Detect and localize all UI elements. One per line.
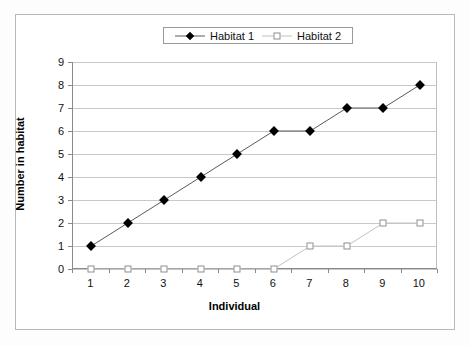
legend-entry-habitat-1[interactable]: Habitat 1 [175,30,254,42]
legend-label-habitat-1: Habitat 1 [210,30,254,42]
x-axis-title: Individual [0,300,469,312]
data-point-habitat-2 [270,266,277,273]
legend-marker-open-square-icon [262,31,292,41]
data-point-habitat-2 [88,266,95,273]
series-lines [73,62,438,269]
legend-label-habitat-2: Habitat 2 [297,30,341,42]
data-point-habitat-2 [380,220,387,227]
chart-legend: Habitat 1 Habitat 2 [163,27,353,44]
data-point-habitat-2 [416,220,423,227]
data-point-habitat-2 [343,243,350,250]
data-point-habitat-2 [307,243,314,250]
legend-marker-filled-diamond-icon [175,31,205,41]
data-point-habitat-2 [197,266,204,273]
plot-area [72,62,437,269]
y-axis-title: Number in habitat [14,84,26,244]
data-point-habitat-2 [124,266,131,273]
legend-entry-habitat-2[interactable]: Habitat 2 [262,30,341,42]
series-line-habitat-1 [91,85,420,246]
chart-figure: Habitat 1 Habitat 2 01234567891234567891… [0,0,469,346]
series-line-habitat-2 [91,223,420,269]
data-point-habitat-2 [161,266,168,273]
data-point-habitat-2 [234,266,241,273]
